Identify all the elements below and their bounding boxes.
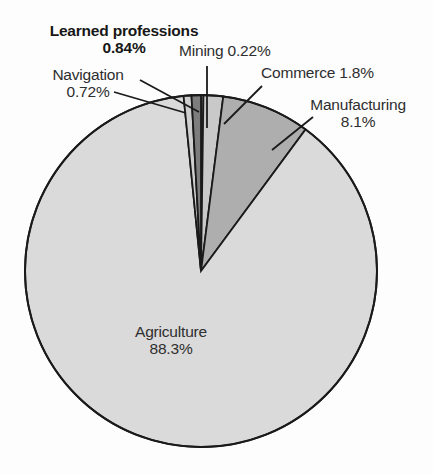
pie-label-navigation-name: Navigation: [36, 66, 140, 83]
pie-label-navigation: Navigation 0.72%: [36, 66, 140, 101]
pie-label-mining: Mining 0.22%: [179, 42, 271, 59]
pie-label-navigation-value: 0.72%: [36, 83, 140, 100]
pie-chart-figure: Learned professions 0.84% Navigation 0.7…: [0, 0, 433, 474]
pie-label-manufacturing-name: Manufacturing: [296, 96, 420, 113]
pie-label-manufacturing-value: 8.1%: [296, 113, 420, 130]
pie-slices-group: [25, 95, 377, 447]
pie-label-agriculture-name: Agriculture: [113, 323, 229, 340]
pie-label-manufacturing: Manufacturing 8.1%: [296, 96, 420, 131]
pie-label-agriculture-value: 88.3%: [113, 340, 229, 357]
pie-label-commerce: Commerce 1.8%: [261, 64, 374, 81]
pie-label-learned-professions-name: Learned professions: [41, 22, 207, 39]
pie-label-agriculture: Agriculture 88.3%: [113, 323, 229, 358]
